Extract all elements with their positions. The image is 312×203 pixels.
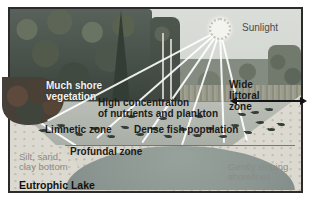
limnetic-zone-label: Limnetic zone xyxy=(45,125,112,136)
shoreline-label: Gently sloping shorelines xyxy=(228,162,288,183)
fish-icon xyxy=(245,131,252,135)
fish-icon xyxy=(268,128,275,131)
fish-icon xyxy=(278,123,285,127)
eutrophic-lake-figure: Sunlight Much shore vegetation High conc… xyxy=(0,0,312,203)
littoral-zone-label: Wide littoral zone xyxy=(229,80,260,112)
fish-icon xyxy=(266,108,273,111)
nutrients-line2: of nutrients and plankton xyxy=(98,109,218,120)
substrate-line2: clay bottom xyxy=(19,162,68,172)
littoral-line2: littoral xyxy=(229,91,260,102)
shoreline-line2: shorelines xyxy=(228,172,288,182)
shore-vegetation-line2: vegetation xyxy=(46,92,102,103)
fish-population-label: Dense fish population xyxy=(134,125,238,136)
profundal-zone-label: Profundal zone xyxy=(70,147,142,158)
shore-vegetation-label: Much shore vegetation xyxy=(46,81,102,103)
littoral-line3: zone xyxy=(229,102,260,113)
fish-icon xyxy=(239,113,246,117)
sunlight-label: Sunlight xyxy=(242,23,278,34)
bottom-substrate-label: Silt, sand, clay bottom xyxy=(19,152,68,173)
sun-icon xyxy=(209,18,231,40)
fish-icon xyxy=(257,121,264,125)
lake-title: Eutrophic Lake xyxy=(19,180,95,191)
diagram-frame: Sunlight Much shore vegetation High conc… xyxy=(8,7,303,193)
nutrients-plankton-label: High concentration of nutrients and plan… xyxy=(98,98,218,120)
fish-icon xyxy=(122,126,129,130)
